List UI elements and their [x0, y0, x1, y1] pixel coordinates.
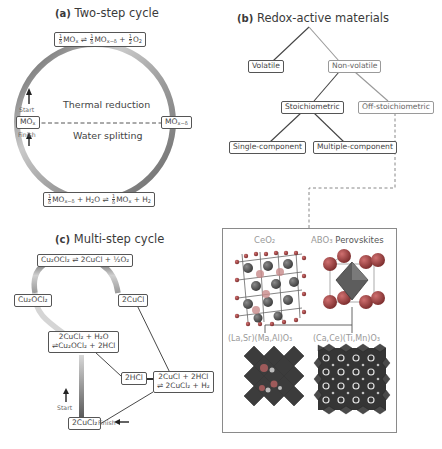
node-2cucl2-start: 2CuCl₂ [68, 417, 101, 430]
panel-b-label: (b) [237, 13, 253, 24]
panel-c-title-text: Multi-step cycle [74, 232, 165, 246]
plus-sign: + [119, 35, 125, 44]
hydrolysis-equation: 2CuCl₂ + H₂O ⇌Cu₂OCl₂ + 2HCl [48, 331, 119, 353]
metal-oxide-node: MOx [16, 116, 40, 129]
decomposition-equation: Cu₂OCl₂ ⇌ 2CuCl + ½O₂ [37, 254, 133, 267]
perovskites-text: Perovskites [335, 235, 383, 245]
off-stoichiometric-materials-frame [222, 228, 397, 433]
reduced-oxide-node: MOx−δ [161, 116, 192, 129]
panel-b-title: (b) Redox-active materials [237, 11, 389, 25]
node-2cucl: 2CuCl [118, 294, 148, 307]
start-label-c: Start [57, 404, 72, 411]
finish-label: Finish [18, 131, 36, 138]
node-volatile: Volatile [248, 60, 284, 73]
fraction: 1δ [112, 194, 115, 205]
thermal-reduction-equation: 1δMOx ⇌ 1δMOx−δ + 12O2 [54, 32, 146, 47]
abo3-formula: ABO₃ [311, 235, 333, 245]
start-label: Start [19, 106, 34, 113]
plus-sign: + [77, 195, 83, 204]
finish-label-c: Finish [98, 419, 116, 426]
water-splitting-label: Water splitting [73, 130, 143, 141]
water-splitting-equation: 1δMOx−δ + H2O ⇌ 1δMOx + H2 [43, 192, 155, 207]
node-cu2ocl2: Cu₂OCl₂ [14, 294, 52, 307]
materials-tree-lines [270, 27, 395, 228]
panel-c-title: (c) Multi-step cycle [55, 232, 164, 246]
panel-c-label: (c) [55, 234, 70, 245]
fraction: 12 [129, 34, 132, 45]
panel-a-title-text: Two-step cycle [75, 6, 159, 20]
panel-a-label: (a) [55, 8, 71, 19]
electrolysis-equation: 2CuCl + 2HCl ⇌ 2CuCl₂ + H₂ [153, 371, 214, 393]
electrolysis-line-2: ⇌ 2CuCl₂ + H₂ [157, 382, 210, 391]
panel-a-title: (a) Two-step cycle [55, 6, 159, 20]
fraction: 1δ [90, 34, 93, 45]
fraction: 1δ [59, 34, 62, 45]
node-stoichiometric: Stoichiometric [281, 101, 344, 114]
plus-sign: + [134, 195, 140, 204]
equilibrium-arrow: ⇌ [81, 35, 87, 44]
cace-label: (Ca,Ce)(Ti,Mn)O₃ [313, 334, 380, 343]
abo3-perovskites-label: ABO₃ Perovskites [311, 235, 384, 245]
node-off-stoichiometric: Off-stoichiometric [358, 101, 434, 114]
thermal-reduction-label: Thermal reduction [63, 99, 150, 110]
two-step-ring [17, 44, 173, 200]
ceo2-label: CeO₂ [254, 235, 275, 245]
node-2hcl: 2HCl [121, 372, 147, 385]
node-non-volatile: Non-volatile [328, 60, 381, 73]
node-single-component: Single-component [229, 141, 306, 154]
equilibrium-arrow: ⇌ [102, 195, 108, 204]
lasr-label: (La,Sr)(Ma,Al)O₃ [228, 334, 292, 343]
panel-b-title-text: Redox-active materials [257, 11, 389, 25]
hydrolysis-line-2: ⇌Cu₂OCl₂ + 2HCl [52, 342, 115, 351]
node-multiple-component: Multiple-component [313, 141, 397, 154]
fraction: 1δ [48, 194, 51, 205]
